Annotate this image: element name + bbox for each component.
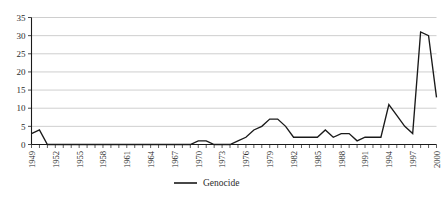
ytick-label-5: 5 bbox=[21, 122, 26, 132]
xtick-label-2000: 2000 bbox=[432, 151, 442, 168]
xtick-label-1949: 1949 bbox=[27, 151, 37, 168]
xtick-label-1982: 1982 bbox=[289, 151, 299, 168]
ytick-label-25: 25 bbox=[17, 49, 27, 59]
xtick-label-1967: 1967 bbox=[170, 151, 180, 168]
ytick-label-10: 10 bbox=[17, 103, 27, 113]
xtick-label-1988: 1988 bbox=[337, 151, 347, 168]
xtick-label-1979: 1979 bbox=[265, 151, 275, 168]
xtick-label-1964: 1964 bbox=[146, 150, 156, 168]
ytick-label-35: 35 bbox=[17, 13, 27, 23]
xtick-label-1994: 1994 bbox=[384, 150, 394, 168]
genocide-line-chart-figure: 0510152025303519491952195519581961196419… bbox=[0, 0, 444, 199]
xtick-label-1985: 1985 bbox=[313, 151, 323, 168]
xtick-label-1991: 1991 bbox=[360, 151, 370, 168]
ytick-label-15: 15 bbox=[17, 85, 27, 95]
xtick-label-1958: 1958 bbox=[98, 151, 108, 168]
xtick-label-1961: 1961 bbox=[122, 151, 132, 168]
xtick-label-1952: 1952 bbox=[51, 151, 61, 168]
xtick-label-1997: 1997 bbox=[408, 151, 418, 168]
ytick-label-20: 20 bbox=[17, 67, 27, 77]
ytick-label-0: 0 bbox=[21, 140, 26, 150]
xtick-label-1970: 1970 bbox=[194, 151, 204, 168]
ytick-label-30: 30 bbox=[17, 31, 27, 41]
xtick-label-1955: 1955 bbox=[75, 151, 85, 168]
legend-label-genocide: Genocide bbox=[203, 178, 239, 188]
xtick-label-1973: 1973 bbox=[217, 151, 227, 168]
chart-canvas: 0510152025303519491952195519581961196419… bbox=[0, 0, 444, 199]
plot-background bbox=[32, 18, 437, 145]
xtick-label-1976: 1976 bbox=[241, 151, 251, 168]
